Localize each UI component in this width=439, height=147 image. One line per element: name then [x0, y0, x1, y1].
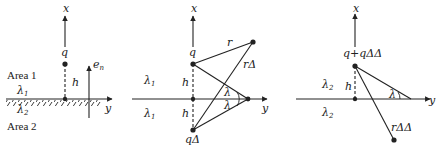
charge-point	[190, 61, 195, 66]
r-label: r	[227, 36, 233, 49]
angle-arc	[398, 92, 400, 99]
angle-top-label: λ	[223, 86, 231, 99]
area-2-label: Area 2	[7, 120, 37, 132]
panel-2: x y q qΔ h h r rΔ λ λ λ1 λ1	[132, 2, 269, 146]
origin-point	[63, 97, 67, 101]
origin-point	[191, 97, 195, 101]
charge-label: q	[61, 46, 68, 59]
r-delta-label: rΔ	[243, 58, 256, 71]
observation-point	[250, 39, 255, 44]
charge-point	[352, 63, 357, 68]
x-axis-label: x	[191, 2, 198, 15]
image-charge-point	[190, 127, 195, 132]
angle-bottom-label: λ	[223, 99, 231, 112]
lambda-1-label: λ1	[16, 84, 28, 98]
observation-point	[391, 137, 396, 142]
image-to-point-line	[193, 99, 248, 130]
angle-label: λ	[388, 88, 396, 101]
y-axis-label: y	[104, 102, 112, 115]
image-charge-diagram: x y q h en Area 1 Area 2 λ1 λ2 x y q qΔ …	[0, 0, 439, 147]
height-top-label: h	[182, 76, 189, 89]
origin-point	[353, 97, 357, 101]
panel-1: x y q h en Area 1 Area 2 λ1 λ2	[6, 2, 112, 132]
charge-point	[62, 61, 67, 66]
boundary-point	[246, 97, 251, 102]
lambda-bottom-label: λ2	[321, 106, 334, 120]
y-axis-label: y	[261, 102, 269, 115]
r-delta-line	[193, 42, 253, 130]
lambda-top-label: λ2	[321, 78, 334, 92]
charge-to-point-line	[193, 64, 248, 99]
x-axis-label: x	[63, 2, 70, 15]
area-1-label: Area 1	[7, 69, 37, 81]
charge-label: q+qΔΔ	[343, 47, 382, 60]
height-bottom-label: h	[182, 107, 189, 120]
height-label: h	[72, 76, 79, 89]
normal-label: en	[93, 58, 105, 72]
panel-3: x y q+qΔΔ h rΔΔ λ λ2 λ2	[296, 2, 436, 143]
lambda-bottom-label: λ1	[143, 107, 155, 121]
charge-label: q	[189, 46, 196, 59]
height-label: h	[345, 80, 352, 93]
r-delta-label: rΔΔ	[391, 121, 412, 134]
image-charge-label: qΔ	[185, 133, 200, 146]
x-axis-label: x	[353, 2, 360, 15]
lambda-top-label: λ1	[143, 74, 155, 88]
y-axis-label: y	[428, 94, 436, 107]
